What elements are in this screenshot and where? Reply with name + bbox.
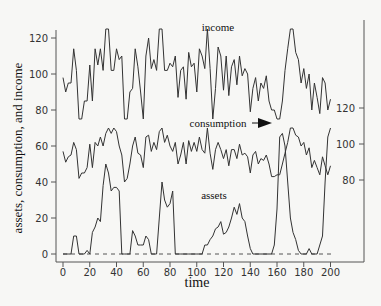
y-tick-label: 40 (35, 177, 48, 188)
y-right-tick-label: 120 (336, 103, 355, 114)
y-tick-label: 0 (42, 249, 48, 260)
assets-line (63, 128, 331, 254)
income-label: income (202, 21, 234, 33)
y-axis-title: assets, consumption, and income (10, 62, 25, 233)
arrow-icon (258, 118, 272, 128)
y-tick-label: 100 (29, 69, 48, 80)
y-tick-label: 120 (29, 33, 48, 44)
y-right-tick-label: 80 (342, 175, 355, 186)
x-tick-label: 60 (137, 267, 150, 278)
chart-canvas: 020406080100120140160180200 020406080100… (0, 0, 381, 306)
y-tick-label: 20 (35, 213, 48, 224)
x-tick-label: 140 (241, 267, 260, 278)
y-right-tick-label: 100 (336, 139, 355, 150)
x-axis-title: time (185, 275, 210, 290)
y-tick-label: 60 (35, 141, 48, 152)
x-tick-label: 180 (294, 267, 313, 278)
x-tick-label: 20 (83, 267, 96, 278)
x-tick-label: 200 (321, 267, 340, 278)
x-tick-label: 40 (110, 267, 123, 278)
x-tick-label: 80 (164, 267, 177, 278)
consumption-line (63, 128, 331, 182)
series-lines (63, 29, 331, 254)
x-tick-label: 0 (60, 267, 66, 278)
y-tick-label: 80 (35, 105, 48, 116)
y-axis-left-ticks: 020406080100120 (29, 33, 56, 260)
x-tick-label: 120 (214, 267, 233, 278)
x-tick-label: 160 (267, 267, 286, 278)
consumption-label: consumption (190, 117, 247, 129)
income-line (63, 29, 331, 119)
assets-label: assets (201, 189, 227, 201)
y-axis-right-ticks: 80100120 (336, 103, 364, 186)
